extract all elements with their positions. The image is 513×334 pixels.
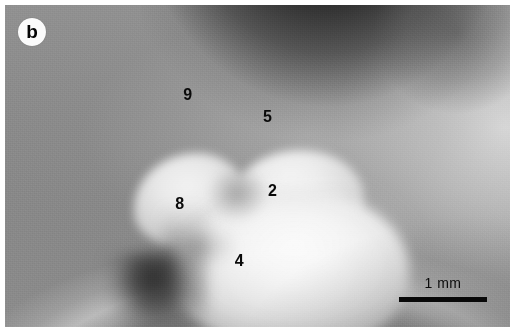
micrograph-dark-notch <box>268 5 510 160</box>
cusp-label-5: 5 <box>263 109 272 125</box>
scale-bar-label: 1 mm <box>397 276 489 290</box>
figure-panel: 9 5 2 8 4 b 1 mm <box>0 0 513 334</box>
panel-letter-badge: b <box>18 18 46 46</box>
lower-left-shadow <box>106 253 197 327</box>
micrograph-dark-top-band <box>141 5 510 147</box>
cusp-label-2: 2 <box>268 183 277 199</box>
intercusp-groove <box>207 166 268 221</box>
panel-letter-text: b <box>26 22 38 41</box>
scale-bar-rule <box>399 297 487 302</box>
cusp-label-9: 9 <box>183 87 192 103</box>
cusp-label-4: 4 <box>235 253 244 269</box>
cusp-label-8: 8 <box>175 196 184 212</box>
scale-bar: 1 mm <box>397 276 489 302</box>
